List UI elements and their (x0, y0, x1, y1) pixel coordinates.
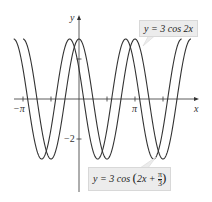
x-axis-label: x (194, 103, 198, 114)
y-axis-arrow-icon (77, 15, 81, 20)
callout-cos2x: y = 3 cos 2x (139, 20, 198, 37)
tick-label-neg-two: −2 (64, 133, 75, 144)
y-axis-label: y (70, 12, 74, 23)
x-axis-arrow-icon (194, 97, 199, 101)
callout-shifted: y = 3 cos (2x + π3) (88, 167, 171, 191)
callout-shifted-prefix: y = 3 cos (93, 173, 133, 184)
callout-shifted-inner: 2x + (137, 173, 158, 184)
callout-cos2x-text: y = 3 cos 2x (144, 23, 193, 34)
tick-label-pi: π (132, 103, 137, 114)
tick-label-neg-pi: −π (13, 103, 25, 114)
axes (14, 15, 199, 192)
